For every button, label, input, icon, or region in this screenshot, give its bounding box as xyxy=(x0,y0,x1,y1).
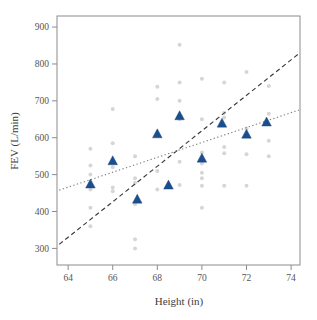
data-point-raw xyxy=(245,152,249,156)
data-point-raw xyxy=(88,224,92,228)
data-point-mean xyxy=(175,111,185,120)
chart-canvas: 646668707274 300400500600700800900 Heigh… xyxy=(0,0,317,320)
y-tick-label: 900 xyxy=(35,22,50,32)
x-axis-tick-labels: 646668707274 xyxy=(63,273,296,283)
data-point-raw xyxy=(88,173,92,177)
data-point-mean xyxy=(197,153,207,162)
dotted-fit-line xyxy=(59,110,299,190)
data-point-raw xyxy=(155,187,159,191)
data-point-mean xyxy=(108,156,118,165)
raw-data-points xyxy=(88,43,270,251)
y-tick-label: 600 xyxy=(35,133,50,143)
data-point-raw xyxy=(200,171,204,175)
data-point-mean xyxy=(86,179,96,188)
y-axis-ticks xyxy=(52,27,57,248)
x-axis-ticks xyxy=(68,265,291,270)
data-point-raw xyxy=(222,145,226,149)
data-point-raw xyxy=(178,43,182,47)
data-point-mean xyxy=(242,129,252,138)
data-point-raw xyxy=(111,165,115,169)
y-tick-label: 700 xyxy=(35,96,50,106)
data-point-raw xyxy=(200,176,204,180)
data-point-raw xyxy=(88,206,92,210)
data-point-raw xyxy=(222,80,226,84)
data-point-raw xyxy=(200,117,204,121)
x-tick-label: 70 xyxy=(197,273,207,283)
y-tick-label: 500 xyxy=(35,170,50,180)
data-point-raw xyxy=(155,169,159,173)
x-axis-title: Height (in) xyxy=(155,295,204,308)
data-point-raw xyxy=(200,184,204,188)
x-tick-label: 72 xyxy=(242,273,252,283)
y-tick-label: 800 xyxy=(35,59,50,69)
data-point-raw xyxy=(222,151,226,155)
data-point-raw xyxy=(178,183,182,187)
x-tick-label: 68 xyxy=(153,273,163,283)
data-point-raw xyxy=(178,99,182,103)
plot-frame xyxy=(57,16,300,265)
y-axis-tick-labels: 300400500600700800900 xyxy=(35,22,50,253)
data-point-raw xyxy=(88,163,92,167)
x-tick-label: 64 xyxy=(63,273,73,283)
data-point-raw xyxy=(267,112,271,116)
x-tick-label: 74 xyxy=(286,273,296,283)
data-point-raw xyxy=(133,246,137,250)
data-point-raw xyxy=(222,184,226,188)
data-point-raw xyxy=(222,115,226,119)
data-point-mean xyxy=(132,194,142,203)
data-point-raw xyxy=(200,206,204,210)
scatter-plot-figure: 646668707274 300400500600700800900 Heigh… xyxy=(0,0,317,320)
data-point-raw xyxy=(88,147,92,151)
data-point-raw xyxy=(111,107,115,111)
data-point-raw xyxy=(267,139,271,143)
y-tick-label: 300 xyxy=(35,244,50,254)
data-point-raw xyxy=(133,154,137,158)
data-point-raw xyxy=(155,97,159,101)
data-point-raw xyxy=(178,160,182,164)
data-point-raw xyxy=(245,184,249,188)
data-point-raw xyxy=(245,70,249,74)
data-point-raw xyxy=(133,237,137,241)
data-point-raw xyxy=(155,85,159,89)
data-point-mean xyxy=(217,118,227,127)
data-point-raw xyxy=(111,189,115,193)
data-point-raw xyxy=(111,141,115,145)
data-point-mean xyxy=(153,129,163,138)
data-point-raw xyxy=(178,80,182,84)
data-point-raw xyxy=(267,154,271,158)
y-tick-label: 400 xyxy=(35,207,50,217)
y-axis-title: FEV (L/min) xyxy=(8,112,21,170)
data-point-raw xyxy=(200,77,204,81)
data-point-raw xyxy=(133,176,137,180)
x-tick-label: 66 xyxy=(108,273,118,283)
data-point-raw xyxy=(111,186,115,190)
data-point-raw xyxy=(267,84,271,88)
data-point-mean xyxy=(164,180,174,189)
